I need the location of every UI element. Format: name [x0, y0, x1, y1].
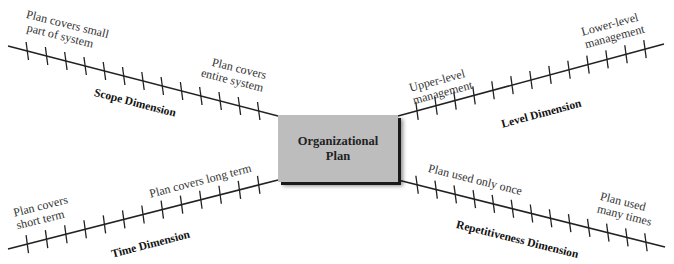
organizational-plan-box: Organizational Plan: [278, 115, 398, 182]
center-title-line2: Plan: [326, 149, 350, 164]
figure-caption-cropped: [0, 257, 674, 264]
center-title-line1: Organizational: [298, 134, 379, 149]
